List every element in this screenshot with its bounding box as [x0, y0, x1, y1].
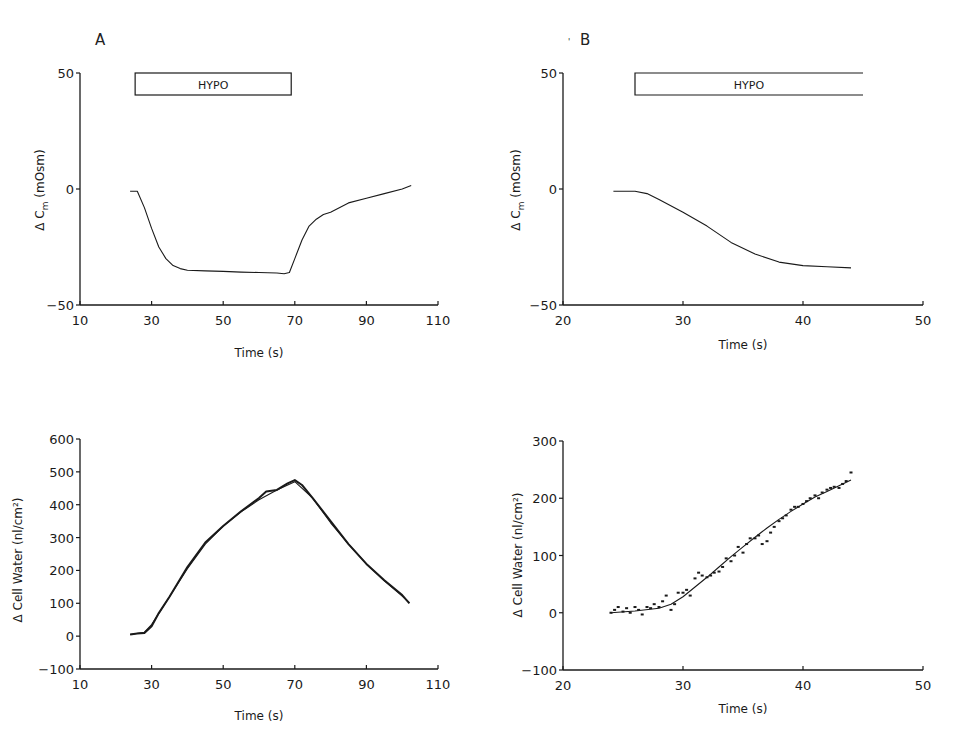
data-point [742, 552, 745, 554]
data-point [737, 546, 740, 548]
x-axis-title: Time (s) [234, 346, 284, 360]
data-point [634, 606, 637, 608]
y-tick-label: −100 [38, 662, 74, 677]
y-tick-label: 0 [66, 629, 74, 644]
data-point [641, 613, 644, 615]
x-tick-label: 70 [287, 677, 304, 692]
chart-b-bottom: 20304050−1000100200300Time (s)Δ Cell Wat… [511, 434, 931, 716]
x-tick-label: 50 [215, 313, 232, 328]
x-tick-label: 10 [72, 313, 89, 328]
data-point [701, 575, 704, 577]
y-axis-title: Δ Cell Water (nl/cm²) [511, 493, 525, 618]
data-point [850, 471, 853, 473]
y-tick-label: −50 [47, 298, 74, 313]
data-point [677, 592, 680, 594]
x-tick-label: 20 [555, 313, 572, 328]
series-cm [613, 191, 851, 268]
data-point [749, 537, 752, 539]
hypo-label: HYPO [734, 79, 765, 92]
series-measured [130, 480, 409, 634]
y-tick-label: 100 [532, 549, 557, 564]
panel-label-a: A [95, 31, 106, 49]
x-tick-label: 40 [795, 313, 812, 328]
data-point [689, 595, 692, 597]
x-axis-title: Time (s) [718, 338, 768, 352]
y-tick-label: −50 [530, 298, 557, 313]
data-point [682, 592, 685, 594]
y-tick-label: 300 [532, 434, 557, 449]
hypo-bar: HYPO [635, 73, 863, 95]
y-tick-label: 0 [549, 606, 557, 621]
y-tick-label: 600 [49, 432, 74, 447]
y-tick-label: 50 [57, 66, 74, 81]
data-point [673, 603, 676, 605]
series-fit [611, 480, 851, 613]
panel-label-b: B [580, 31, 590, 49]
y-tick-label: 50 [540, 66, 557, 81]
x-tick-label: 70 [287, 313, 304, 328]
data-point [613, 609, 616, 611]
y-axis-title: Δ Cm (mOsm) [509, 149, 526, 230]
data-point [694, 577, 697, 579]
y-tick-label: 200 [49, 563, 74, 578]
x-axis-title: Time (s) [234, 709, 284, 723]
y-tick-label: 100 [49, 596, 74, 611]
data-point [646, 606, 649, 608]
hypo-bar: HYPO [135, 73, 291, 95]
series-cm [130, 186, 411, 274]
data-point [838, 487, 841, 489]
y-tick-label: 0 [66, 182, 74, 197]
chart-a-top: 1030507090110−50050Time (s)Δ Cm (mOsm)HY… [33, 66, 450, 360]
data-point [661, 600, 664, 602]
data-point [617, 606, 620, 608]
data-point [697, 572, 700, 574]
y-axis-title: Δ Cm (mOsm) [33, 149, 50, 230]
x-tick-label: 30 [675, 678, 692, 693]
data-point [817, 497, 820, 499]
y-tick-label: 200 [532, 491, 557, 506]
chart-b-top: 20304050−50050Time (s)Δ Cm (mOsm)HYPO [509, 66, 931, 352]
chart-a-bottom: 1030507090110−1000100200300400500600Time… [11, 432, 450, 723]
data-point [721, 566, 724, 568]
x-tick-label: 10 [72, 677, 89, 692]
series-fit [130, 482, 409, 635]
data-point [761, 543, 764, 545]
data-point [670, 609, 673, 611]
data-point [769, 532, 772, 534]
hypo-label: HYPO [198, 79, 229, 92]
x-tick-label: 110 [426, 313, 451, 328]
x-tick-label: 50 [915, 313, 932, 328]
x-tick-label: 50 [215, 677, 232, 692]
y-tick-label: 500 [49, 465, 74, 480]
x-tick-label: 30 [143, 313, 160, 328]
x-tick-label: 20 [555, 678, 572, 693]
data-point [718, 571, 721, 573]
x-tick-label: 90 [358, 677, 375, 692]
x-tick-label: 30 [675, 313, 692, 328]
data-point [653, 603, 656, 605]
data-point [730, 560, 733, 562]
x-tick-label: 50 [915, 678, 932, 693]
data-point [685, 589, 688, 591]
data-point [773, 526, 776, 528]
data-point [766, 540, 769, 542]
y-axis-title: Δ Cell Water (nl/cm²) [11, 498, 25, 623]
y-tick-label: 300 [49, 531, 74, 546]
data-point [665, 595, 668, 597]
x-tick-label: 40 [795, 678, 812, 693]
x-tick-label: 30 [143, 677, 160, 692]
y-tick-label: 400 [49, 498, 74, 513]
data-point [629, 612, 632, 614]
x-tick-label: 110 [426, 677, 451, 692]
data-point [793, 506, 796, 508]
data-point [625, 607, 628, 609]
y-tick-label: −100 [521, 663, 557, 678]
y-tick-label: 0 [549, 182, 557, 197]
x-tick-label: 90 [358, 313, 375, 328]
figure: A ' B 1030507090110−50050Time (s)Δ Cm (m… [0, 0, 959, 741]
x-axis-title: Time (s) [718, 702, 768, 716]
stray-mark: ' [568, 38, 570, 47]
data-point [725, 557, 728, 559]
